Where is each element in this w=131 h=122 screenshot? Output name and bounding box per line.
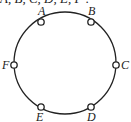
node-a — [38, 19, 44, 25]
node-b — [88, 19, 94, 25]
ring-diagram: ABCDEF — [0, 0, 131, 122]
node-label-b: B — [88, 4, 96, 18]
node-label-e: E — [35, 110, 44, 122]
ring-nodes: ABCDEF — [1, 4, 130, 122]
ring-circle — [14, 12, 116, 114]
node-label-d: D — [86, 110, 96, 122]
node-c — [113, 62, 119, 68]
node-label-c: C — [121, 58, 130, 72]
node-label-a: A — [37, 4, 46, 18]
node-label-f: F — [1, 58, 10, 72]
node-f — [11, 62, 17, 68]
